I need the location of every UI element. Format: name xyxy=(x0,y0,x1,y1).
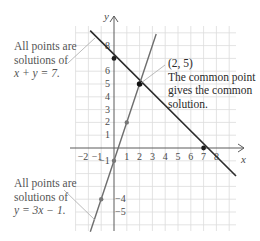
point-0-7 xyxy=(112,56,117,61)
svg-text:5: 5 xyxy=(105,78,110,89)
svg-text:6: 6 xyxy=(188,151,193,162)
svg-text:−5: −5 xyxy=(115,206,126,217)
svg-text:−4: −4 xyxy=(115,193,126,204)
svg-text:2: 2 xyxy=(105,116,110,127)
annotation-common-point: (2, 5) The common point gives the common… xyxy=(168,57,256,111)
y-tick-labels: 8 6 5 4 3 2 1 −1 −4 −5 xyxy=(99,40,126,217)
annotation-line-x-plus-y: All points are solutions of x + y = 7. xyxy=(14,40,77,81)
annotation-line-y-equals-3x-minus-1: All points are solutions of y = 3x − 1. xyxy=(14,177,77,218)
svg-text:4: 4 xyxy=(163,151,168,162)
svg-text:5: 5 xyxy=(176,151,181,162)
svg-text:2: 2 xyxy=(137,151,142,162)
svg-text:3: 3 xyxy=(105,104,110,115)
svg-text:1: 1 xyxy=(105,129,110,140)
point-7-0 xyxy=(201,146,206,151)
y-axis-label: y xyxy=(103,10,109,22)
x-axis-label: x xyxy=(240,153,246,165)
svg-text:6: 6 xyxy=(105,65,110,76)
svg-text:3: 3 xyxy=(150,151,155,162)
axes xyxy=(70,16,244,231)
svg-text:1: 1 xyxy=(124,151,129,162)
svg-text:7: 7 xyxy=(201,151,206,162)
svg-text:4: 4 xyxy=(105,91,110,102)
point-0-neg1 xyxy=(112,159,116,163)
point-2-5-intersection xyxy=(137,81,143,87)
svg-text:−2: −2 xyxy=(78,151,89,162)
point-1-2 xyxy=(125,120,129,124)
point-neg1-neg4 xyxy=(99,197,103,201)
svg-text:−1: −1 xyxy=(99,155,110,166)
